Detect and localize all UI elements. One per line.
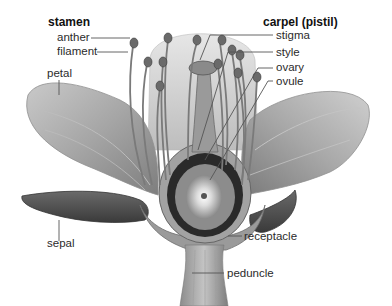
stamen-heading: stamen <box>48 16 90 28</box>
style-label: style <box>276 47 300 59</box>
ovary-label: ovary <box>276 62 304 74</box>
receptacle-label: receptacle <box>244 231 297 243</box>
ovule-label: ovule <box>276 76 304 88</box>
peduncle <box>180 245 228 306</box>
petal-label: petal <box>47 68 72 80</box>
petal-right <box>242 91 370 195</box>
carpel-heading: carpel (pistil) <box>263 16 338 28</box>
ovule <box>186 175 222 219</box>
petal-left <box>27 83 159 195</box>
peduncle-label: peduncle <box>227 268 274 280</box>
anther-label: anther <box>57 32 90 44</box>
filament-label: filament <box>57 46 97 58</box>
stigma-label: stigma <box>276 30 310 42</box>
flower-diagram: stamen anther filament petal sepal carpe… <box>0 0 392 306</box>
sepal-label: sepal <box>47 238 75 250</box>
sepal-left <box>22 191 148 222</box>
